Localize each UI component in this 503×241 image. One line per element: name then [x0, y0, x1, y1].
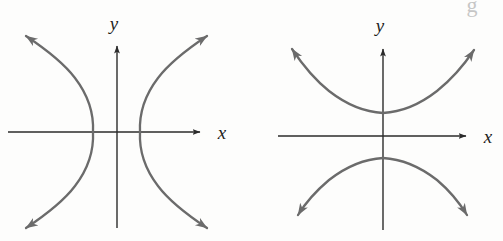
left-y-axis-label: y — [108, 13, 119, 34]
panel-left-horizontal-hyperbola: x y — [8, 13, 227, 228]
right-figure-lower-branch-right — [383, 158, 467, 215]
left-x-axis-label: x — [217, 122, 227, 143]
left-figure-left-branch-lower — [26, 132, 93, 228]
right-figure-upper-branch-left — [292, 49, 383, 113]
scan-corner-artifact: g — [467, 0, 478, 17]
right-figure-lower-branch-left — [298, 158, 383, 215]
hyperbola-figure-pair: x y x y g — [0, 0, 503, 241]
right-x-axis-label: x — [483, 126, 493, 147]
left-figure-right-branch-lower — [140, 132, 207, 228]
figure-canvas: x y x y g — [0, 0, 503, 241]
left-figure-right-branch-upper — [140, 36, 207, 132]
right-y-axis-label: y — [374, 15, 385, 36]
left-figure-left-branch-upper — [26, 36, 93, 132]
panel-right-vertical-hyperbola: x y — [278, 15, 493, 230]
right-figure-upper-branch-right — [383, 50, 474, 113]
